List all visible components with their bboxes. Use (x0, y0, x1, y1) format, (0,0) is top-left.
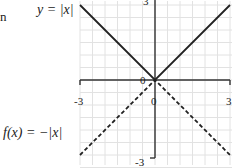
cropped-text-fragment: n (0, 10, 7, 23)
equation-label-abs: y = |x| (37, 3, 74, 17)
x-tick-label-pos3: 3 (226, 96, 232, 107)
function-body: (x) = −|x| (7, 125, 62, 140)
y-tick-label-pos3: 3 (143, 0, 149, 7)
origin-label: 0 (140, 75, 146, 86)
y-tick-label-neg3: -3 (135, 157, 144, 168)
chart-canvas (0, 0, 232, 168)
x-tick-label-neg3: -3 (74, 96, 83, 107)
equation-label-neg-abs: f(x) = −|x| (3, 126, 62, 140)
x-tick-label-zero: 0 (151, 96, 157, 107)
